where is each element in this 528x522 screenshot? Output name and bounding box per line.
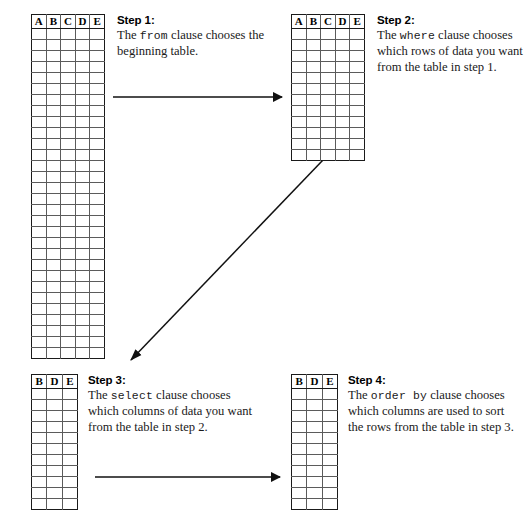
table-cell <box>62 488 77 499</box>
table-row <box>32 51 105 62</box>
table-row <box>292 422 338 433</box>
table-row <box>32 282 105 293</box>
column-header: E <box>62 375 77 389</box>
table-row <box>32 40 105 51</box>
table-cell <box>61 326 76 337</box>
table-cell <box>46 172 61 183</box>
table-row <box>292 477 338 488</box>
table-cell <box>32 194 47 205</box>
table-cell <box>306 106 321 117</box>
table-cell <box>46 150 61 161</box>
table-cell <box>61 84 76 95</box>
table-cell <box>90 227 105 238</box>
step-block-step3: Step 3: The select clause chooses which … <box>88 373 258 435</box>
column-header: D <box>335 15 350 29</box>
table-cell <box>46 205 61 216</box>
table-cell <box>90 84 105 95</box>
table-cell <box>75 249 90 260</box>
table-cell <box>321 51 336 62</box>
sql-keyword: from <box>140 30 168 42</box>
column-header: B <box>292 375 307 389</box>
table-cell <box>75 139 90 150</box>
table-cell <box>61 282 76 293</box>
table-cell <box>307 466 322 477</box>
table-row <box>32 499 78 510</box>
table-step2: A B C D E <box>291 14 365 161</box>
table-row <box>32 128 105 139</box>
table-cell <box>292 389 307 400</box>
table-step4-body <box>292 389 338 510</box>
table-cell <box>321 62 336 73</box>
table-row <box>292 499 338 510</box>
table-cell <box>75 51 90 62</box>
table-cell <box>46 227 61 238</box>
column-header: D <box>47 375 62 389</box>
table-cell <box>75 150 90 161</box>
table-cell <box>306 51 321 62</box>
table-cell <box>350 106 365 117</box>
table-row <box>32 205 105 216</box>
table-step1-header-row: A B C D E <box>32 15 105 29</box>
table-cell <box>61 73 76 84</box>
table-row <box>32 183 105 194</box>
table-row <box>292 488 338 499</box>
table-cell <box>292 411 307 422</box>
table-cell <box>335 106 350 117</box>
table-step4: B D E <box>291 374 338 510</box>
step-title: Step 4: <box>348 373 518 387</box>
table-row <box>292 73 365 84</box>
table-cell <box>62 400 77 411</box>
step-title: Step 2: <box>377 13 528 27</box>
table-cell <box>322 422 337 433</box>
table-cell <box>321 117 336 128</box>
table-cell <box>46 95 61 106</box>
sql-keyword: where <box>400 30 435 42</box>
table-cell <box>32 488 47 499</box>
table-cell <box>46 62 61 73</box>
table-cell <box>47 488 62 499</box>
table-cell <box>61 62 76 73</box>
table-cell <box>322 444 337 455</box>
table-cell <box>75 315 90 326</box>
table-cell <box>75 326 90 337</box>
table-cell <box>90 249 105 260</box>
table-row <box>32 139 105 150</box>
table-row <box>32 488 78 499</box>
table-cell <box>307 433 322 444</box>
table-cell <box>32 411 47 422</box>
table-step2-body <box>292 29 365 161</box>
table-cell <box>61 315 76 326</box>
table-row <box>292 444 338 455</box>
column-header: A <box>292 15 307 29</box>
table-row <box>32 444 78 455</box>
table-step3-body <box>32 389 78 510</box>
table-cell <box>350 139 365 150</box>
table-cell <box>350 73 365 84</box>
table-row <box>292 40 365 51</box>
table-cell <box>46 238 61 249</box>
table-cell <box>61 260 76 271</box>
table-cell <box>75 282 90 293</box>
table-cell <box>61 29 76 40</box>
table-cell <box>292 400 307 411</box>
table-row <box>32 315 105 326</box>
table-cell <box>75 84 90 95</box>
table-cell <box>61 40 76 51</box>
table-cell <box>322 488 337 499</box>
table-cell <box>350 51 365 62</box>
table-cell <box>292 62 307 73</box>
table-cell <box>46 249 61 260</box>
table-cell <box>307 411 322 422</box>
table-cell <box>32 422 47 433</box>
table-cell <box>62 444 77 455</box>
table-row <box>32 304 105 315</box>
table-cell <box>321 84 336 95</box>
table-cell <box>75 293 90 304</box>
table-cell <box>335 128 350 139</box>
table-cell <box>47 400 62 411</box>
table-cell <box>32 62 47 73</box>
table-row <box>32 161 105 172</box>
table-row <box>292 139 365 150</box>
column-header: E <box>90 15 105 29</box>
table-cell <box>75 348 90 359</box>
